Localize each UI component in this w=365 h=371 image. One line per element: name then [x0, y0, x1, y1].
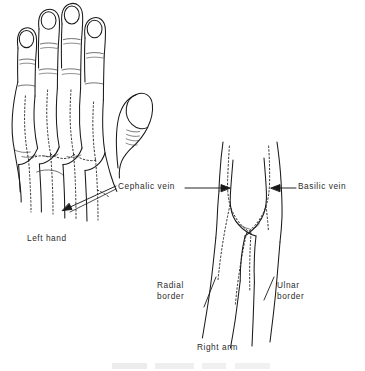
label-radial-border: Radial border [157, 280, 201, 301]
radial-border-line2: border [157, 291, 184, 301]
ulnar-border-line1: Ulnar [277, 280, 300, 290]
ulnar-border-line2: border [277, 291, 304, 301]
label-left-hand: Left hand [27, 233, 67, 244]
label-cephalic-vein: Cephalic vein [118, 181, 175, 192]
cropped-caption-artifact [112, 363, 270, 369]
label-ulnar-border: Ulnar border [277, 280, 321, 301]
label-basilic-vein: Basilic vein [298, 181, 346, 192]
label-right-arm: Right arm [197, 342, 238, 353]
radial-border-line1: Radial [157, 280, 184, 290]
